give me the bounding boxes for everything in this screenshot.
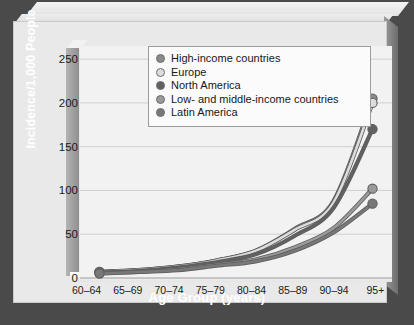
series-line [100,103,373,272]
legend-item-label: High-income countries [171,52,280,65]
legend-item: High-income countries [156,52,363,66]
plot-area: High-income countriesEuropeNorth America… [80,46,392,278]
legend-item-label: North America [171,79,241,92]
chart-panel: 050100150200250 High-income countriesEur… [14,22,386,302]
legend-item: North America [156,79,363,93]
y-tick-label: 250 [44,53,78,65]
series-line [100,204,373,274]
series-latin-america [95,199,377,278]
chart-legend: High-income countriesEuropeNorth America… [148,46,371,127]
chart-frame: 050100150200250 High-income countriesEur… [0,0,414,325]
legend-item: Low- and middle-income countries [156,93,363,107]
y-axis-title: Incidence/1,000 People [24,0,38,174]
legend-marker-icon [156,54,165,63]
legend-marker-icon [156,81,165,90]
data-point-marker [368,184,377,193]
legend-item-label: Latin America [171,106,238,119]
legend-marker-icon [156,95,165,104]
data-point-marker [95,269,104,278]
y-tick-label: 0 [44,272,78,284]
series-line-outline [100,103,373,272]
legend-item-label: Europe [171,66,206,79]
legend-item: Latin America [156,106,363,120]
y-tick-label: 50 [44,228,78,240]
y-tick-label: 100 [44,184,78,196]
y-tick-label: 150 [44,141,78,153]
x-axis-title: Age Group (years) [0,290,414,305]
legend-item-label: Low- and middle-income countries [171,93,339,106]
legend-marker-icon [156,108,165,117]
legend-item: Europe [156,66,363,80]
legend-marker-icon [156,68,165,77]
data-point-marker [368,199,377,208]
y-tick-label: 200 [44,97,78,109]
